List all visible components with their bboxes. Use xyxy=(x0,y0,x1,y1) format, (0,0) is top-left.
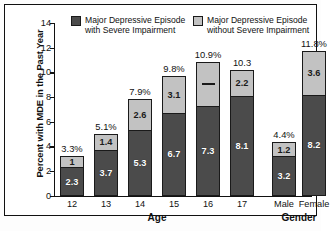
bar-segment-label: 2.3 xyxy=(66,177,79,187)
bar-segment-without-severe-impairment[interactable]: 3.6 xyxy=(302,51,326,95)
bar-total-label: 5.1% xyxy=(95,121,116,132)
bar-stack[interactable]: 11.8%3.68.2 xyxy=(302,51,326,196)
bar-segment-label: 8.2 xyxy=(308,140,321,150)
bar-segment-label: 5.3 xyxy=(134,158,147,168)
bar-segment-label: 1.2 xyxy=(278,145,291,155)
bar-total-label: 7.9% xyxy=(129,86,150,97)
bar-segment-with-severe-impairment[interactable]: 2.3 xyxy=(60,167,84,195)
bar-segment-label: 1.4 xyxy=(100,137,113,147)
bar-stack[interactable]: 10.9%—7.3 xyxy=(196,62,220,195)
x-axis-tick-label: Female xyxy=(294,199,334,209)
y-axis-tick-label: 10 xyxy=(41,67,51,77)
bar-total-label: 3.3% xyxy=(61,143,82,154)
bar-segment-with-severe-impairment[interactable]: 7.3 xyxy=(196,106,220,196)
bar-stack[interactable]: 7.9%2.65.3 xyxy=(128,99,152,195)
legend-label-with-severe-impairment: Major Depressive Episode with Severe Imp… xyxy=(85,15,185,35)
bar-segment-label: 2.6 xyxy=(134,110,147,120)
legend-item-with-severe-impairment: Major Depressive Episode with Severe Imp… xyxy=(71,15,185,35)
x-axis-group-label: Gender xyxy=(249,212,334,223)
bar-segment-without-severe-impairment[interactable]: 2.2 xyxy=(230,70,254,97)
y-axis-tick-label: 6 xyxy=(46,117,51,127)
bar-segment-label: 3.1 xyxy=(168,90,181,100)
x-axis-group-label: Age xyxy=(107,212,207,223)
bar-segment-label: 2.2 xyxy=(236,78,249,88)
y-axis-tick-label: 0 xyxy=(46,191,51,201)
y-axis-tick-label: 14 xyxy=(41,18,51,28)
y-axis-tick-label: 4 xyxy=(46,141,51,151)
plot-area: 02468101214 3.3%12.35.1%1.43.77.9%2.65.3… xyxy=(54,23,312,197)
bar-segment-label: 8.1 xyxy=(236,141,249,151)
legend-swatch-dark-icon xyxy=(71,16,81,26)
legend-line-2: with Severe Impairment xyxy=(85,25,175,35)
bar-total-label: 10.9% xyxy=(195,49,222,60)
bar-total-label: 9.8% xyxy=(163,63,184,74)
bar-segment-label: 6.7 xyxy=(168,149,181,159)
bar-stack[interactable]: 3.3%12.3 xyxy=(60,156,84,196)
bar-segment-with-severe-impairment[interactable]: 3.7 xyxy=(94,150,118,196)
bar-segment-with-severe-impairment[interactable]: 5.3 xyxy=(128,130,152,195)
y-axis-line xyxy=(54,23,55,197)
legend-swatch-light-icon xyxy=(193,16,203,26)
bar-segment-with-severe-impairment[interactable]: 8.1 xyxy=(230,96,254,196)
bar-stack[interactable]: 4.4%1.23.2 xyxy=(272,142,296,195)
bar-total-label: 10.3 xyxy=(233,57,251,68)
legend-line-2: without Severe Impairment xyxy=(207,25,309,35)
bar-segment-label: — xyxy=(202,83,215,85)
bar-segment-without-severe-impairment[interactable]: 3.1 xyxy=(162,76,186,114)
bar-segment-with-severe-impairment[interactable]: 8.2 xyxy=(302,95,326,196)
bar-stack[interactable]: 10.32.28.1 xyxy=(230,70,254,196)
y-axis-tick-label: 12 xyxy=(41,43,51,53)
bar-segment-with-severe-impairment[interactable]: 6.7 xyxy=(162,113,186,196)
bar-stack[interactable]: 9.8%3.16.7 xyxy=(162,76,186,196)
bar-segment-label: 7.3 xyxy=(202,146,215,156)
bar-total-label: 4.4% xyxy=(273,129,294,140)
legend-item-without-severe-impairment: Major Depressive Episode without Severe … xyxy=(193,15,309,35)
bar-total-label: 11.8% xyxy=(301,38,327,49)
x-axis-tick-label: 17 xyxy=(222,199,262,209)
x-axis-line xyxy=(54,196,312,197)
bar-segment-label: 1 xyxy=(69,157,74,167)
legend-label-without-severe-impairment: Major Depressive Episode without Severe … xyxy=(207,15,309,35)
bar-segment-without-severe-impairment[interactable]: — xyxy=(196,62,220,106)
bar-segment-label: 3.6 xyxy=(308,68,321,78)
bar-segment-without-severe-impairment[interactable]: 1.2 xyxy=(272,142,296,157)
bar-segment-without-severe-impairment[interactable]: 2.6 xyxy=(128,99,152,131)
y-axis-tick-label: 2 xyxy=(46,166,51,176)
y-axis-tick-label: 8 xyxy=(46,92,51,102)
legend-line-1: Major Depressive Episode xyxy=(85,15,185,25)
bar-segment-label: 3.7 xyxy=(100,168,113,178)
bar-segment-with-severe-impairment[interactable]: 3.2 xyxy=(272,156,296,195)
legend-line-1: Major Depressive Episode xyxy=(207,15,307,25)
bar-segment-label: 3.2 xyxy=(278,171,291,181)
bar-segment-without-severe-impairment[interactable]: 1.4 xyxy=(94,134,118,151)
bar-stack[interactable]: 5.1%1.43.7 xyxy=(94,134,118,196)
chart-frame: Percent with MDE in the Past Year 024681… xyxy=(4,4,317,216)
